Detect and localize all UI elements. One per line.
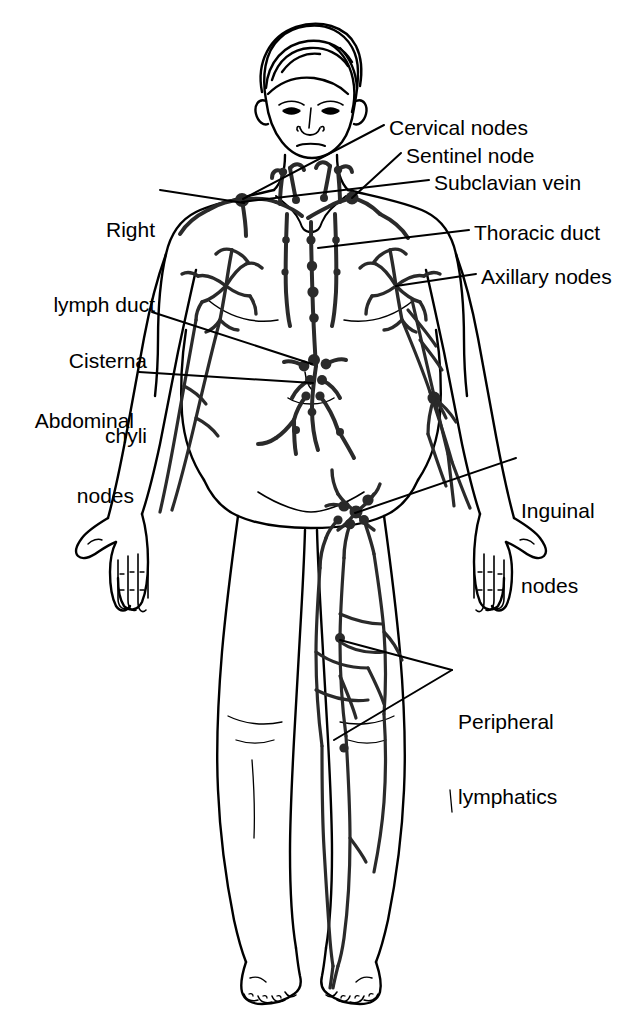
label-subclavian-vein: Subclavian vein [434,170,581,195]
abdominal-node-chain [258,354,354,458]
left-foot [241,948,301,1004]
label-axillary-nodes: Axillary nodes [481,264,612,289]
lymphatic-system-figure: Cervical nodes Sentinel node Subclavian … [0,0,634,1030]
label-peripheral-lymphatics-line1: Peripheral [458,709,557,734]
lymphatic-vessels [160,162,470,988]
label-thoracic-duct: Thoracic duct [474,220,600,245]
label-right-lymph-duct-line1: Right [0,217,155,242]
label-inguinal-nodes-line1: Inguinal [521,498,595,523]
label-inguinal-nodes: Inguinal nodes [521,448,595,648]
face-features [279,101,343,146]
thoracic-duct-chain [306,222,318,366]
leader-abdominal-nodes [139,372,313,383]
label-abdominal-nodes-line2: nodes [0,483,134,508]
hair [261,24,362,112]
left-leg [217,516,305,962]
label-peripheral-lymphatics: Peripheral lymphatics [458,659,557,859]
leader-peripheral-lymphatics-upper [340,640,452,670]
label-cervical-nodes: Cervical nodes [389,115,528,140]
leader-thoracic-duct [318,230,469,248]
arm-lymphatics-left [160,320,220,512]
label-sentinel-node: Sentinel node [406,143,534,168]
label-abdominal-nodes: Abdominal nodes [0,358,134,558]
inguinal-node-cluster [320,470,380,568]
right-arm [426,254,514,518]
label-peripheral-lymphatics-line2: lymphatics [458,784,557,809]
label-abdominal-nodes-line1: Abdominal [0,408,134,433]
label-inguinal-nodes-line2: nodes [521,573,595,598]
leader-sentinel-node [352,153,401,198]
leader-right-lymph-duct [160,190,244,203]
